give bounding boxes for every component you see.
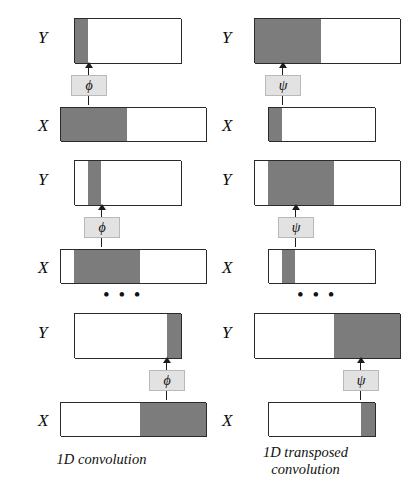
- transposed-last-x-cell-r3-c3: [295, 425, 309, 437]
- transposed-last-y-cell-r4-c7: [334, 347, 348, 359]
- conv-1-x-cell-r3-c2: [74, 130, 88, 142]
- conv-2-x-cell-r3-c9: [167, 272, 181, 284]
- conv-last-y-cell-r4-c2: [88, 347, 102, 359]
- caption-1d-convolution: 1D convolution: [0, 451, 203, 468]
- conv-1-y-cell-r4-c6: [141, 52, 155, 64]
- input-grid-x-transposed-1: [268, 107, 375, 141]
- output-grid-y-transposed-2: [254, 160, 400, 205]
- conv-2-x-cell-r3-c3: [87, 272, 101, 284]
- transposed-1-y-cell-r4-c10: [374, 52, 388, 64]
- conv-2-x-cell-r3-c7: [140, 272, 154, 284]
- transposed-last-x-cell-r3-c7: [348, 425, 362, 437]
- output-label-y-conv-last: Y: [38, 324, 47, 341]
- conv-1-x-cell-r3-c10: [180, 130, 194, 142]
- conv-1-x-cell-r3-c6: [127, 130, 141, 142]
- transposed-1-x-cell-r3-c5: [322, 130, 336, 142]
- conv-2-x-cell-r3-c6: [127, 272, 141, 284]
- conv-last-x-cell-r3-c1: [61, 425, 75, 437]
- transposed-1-y-cell-r4-c9: [361, 52, 375, 64]
- conv-last-x-cell-r3-c4: [101, 425, 115, 437]
- conv-2-x-cell-r3-c8: [153, 272, 167, 284]
- transposed-1-y-cell-r4-c4: [295, 52, 309, 64]
- transposed-1-x-cell-r3-c1: [269, 130, 283, 142]
- conv-2-y-cell-r4-c7: [154, 194, 168, 206]
- transposed-last-y-cell-r4-c2: [268, 347, 282, 359]
- conv-last-y-cell-r4-c5: [128, 347, 142, 359]
- output-grid-y-transposed-1: [254, 18, 400, 63]
- transposed-1-y-cell-r4-c11: [387, 52, 401, 64]
- input-label-x-transposed-1: X: [222, 117, 232, 134]
- transposed-2-y-cell-r4-c8: [347, 194, 361, 206]
- conv-2-y-cell-r4-c6: [141, 194, 155, 206]
- input-grid-x-conv-1: [60, 107, 206, 141]
- conv-1-y-cell-r4-c4: [115, 52, 129, 64]
- panel-1d-transposed-convolution: Y ψ X Y ψ X • • • Y ψ X 1D transposed co…: [204, 0, 407, 460]
- conv-last-y-cell-r4-c6: [141, 347, 155, 359]
- transposed-1-y-cell-r4-c1: [255, 52, 269, 64]
- transposed-last-y-cell-r4-c6: [321, 347, 335, 359]
- output-label-y-transposed-last: Y: [222, 324, 231, 341]
- input-grid-x-transposed-last: [268, 402, 375, 436]
- transposed-2-y-cell-r4-c10: [374, 194, 388, 206]
- conv-last-x-cell-r3-c9: [167, 425, 181, 437]
- conv-last-y-cell-r4-c3: [101, 347, 115, 359]
- transposed-last-x-cell-r3-c5: [322, 425, 336, 437]
- arrow-head-transposed-2: [292, 204, 300, 210]
- transposed-1-x-cell-r3-c8: [361, 130, 375, 142]
- operator-box-phi-last[interactable]: ϕ: [149, 370, 185, 391]
- input-grid-x-conv-last: [60, 402, 206, 436]
- transposed-last-x-cell-r3-c8: [361, 425, 375, 437]
- panel-1d-convolution: Y ϕ X Y ϕ X • • • Y ϕ X 1D convolution: [0, 0, 203, 460]
- conv-last-y-cell-r4-c1: [75, 347, 89, 359]
- transposed-last-y-cell-r4-c1: [255, 347, 269, 359]
- input-label-x-transposed-last: X: [222, 412, 232, 429]
- conv-2-x-cell-r3-c5: [114, 272, 128, 284]
- conv-2-y-cell-r4-c4: [115, 194, 129, 206]
- transposed-last-x-cell-r3-c4: [309, 425, 323, 437]
- transposed-2-x-cell-r3-c4: [309, 272, 323, 284]
- arrow-head-conv-2: [98, 204, 106, 210]
- output-grid-y-conv-1: [74, 18, 181, 63]
- output-label-y-transposed-2: Y: [222, 171, 231, 188]
- input-label-x-conv-1: X: [38, 117, 48, 134]
- conv-1-x-cell-r3-c3: [87, 130, 101, 142]
- transposed-1-x-cell-r3-c4: [309, 130, 323, 142]
- transposed-2-y-cell-r4-c11: [387, 194, 401, 206]
- transposed-last-y-cell-r4-c10: [374, 347, 388, 359]
- transposed-2-y-cell-r4-c5: [308, 194, 322, 206]
- transposed-2-y-cell-r4-c7: [334, 194, 348, 206]
- input-grid-x-conv-2: [60, 249, 206, 283]
- caption-line-2: convolution: [204, 461, 407, 478]
- conv-1-y-cell-r4-c7: [154, 52, 168, 64]
- input-grid-x-transposed-2: [268, 249, 375, 283]
- transposed-1-y-cell-r4-c5: [308, 52, 322, 64]
- transposed-1-y-cell-r4-c8: [347, 52, 361, 64]
- figure-root: Y ϕ X Y ϕ X • • • Y ϕ X 1D convolution Y: [0, 0, 407, 502]
- operator-box-phi-1[interactable]: ϕ: [71, 75, 107, 96]
- output-grid-y-conv-last: [74, 313, 181, 358]
- transposed-1-x-cell-r3-c6: [335, 130, 349, 142]
- conv-1-x-cell-r3-c9: [167, 130, 181, 142]
- conv-1-x-cell-r3-c7: [140, 130, 154, 142]
- transposed-2-x-cell-r3-c1: [269, 272, 283, 284]
- input-label-x-conv-last: X: [38, 412, 48, 429]
- operator-box-psi-1[interactable]: ψ: [265, 75, 301, 96]
- operator-box-psi-2[interactable]: ψ: [278, 217, 314, 238]
- conv-last-x-cell-r3-c3: [87, 425, 101, 437]
- conv-2-x-cell-r3-c10: [180, 272, 194, 284]
- operator-box-phi-2[interactable]: ϕ: [84, 217, 120, 238]
- transposed-last-x-cell-r3-c6: [335, 425, 349, 437]
- conv-last-x-cell-r3-c10: [180, 425, 194, 437]
- operator-box-psi-last[interactable]: ψ: [343, 370, 379, 391]
- transposed-last-x-cell-r3-c2: [282, 425, 296, 437]
- conv-2-y-cell-r4-c8: [167, 194, 181, 206]
- conv-last-x-cell-r3-c5: [114, 425, 128, 437]
- conv-2-y-cell-r4-c1: [75, 194, 89, 206]
- transposed-1-x-cell-r3-c2: [282, 130, 296, 142]
- transposed-2-y-cell-r4-c6: [321, 194, 335, 206]
- transposed-last-y-cell-r4-c4: [295, 347, 309, 359]
- input-label-x-conv-2: X: [38, 259, 48, 276]
- arrow-head-transposed-1: [279, 62, 287, 68]
- arrow-head-conv-1: [85, 62, 93, 68]
- arrow-head-transposed-last: [357, 357, 365, 363]
